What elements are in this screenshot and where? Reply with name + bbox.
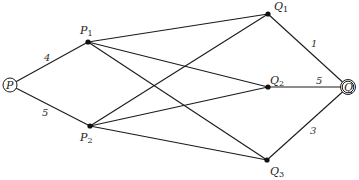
node-p2-dot-icon bbox=[87, 123, 92, 128]
edge-p-p1 bbox=[10, 42, 88, 85]
node-p1-label: P1 bbox=[79, 24, 93, 38]
edge-weight-label: 1 bbox=[311, 38, 317, 49]
edge-q3-q bbox=[267, 87, 348, 160]
edge-p2-q2 bbox=[90, 87, 268, 126]
network-diagram: 45153 PP1P2Q1Q2Q3Q bbox=[0, 0, 359, 180]
edge-weight-label: 4 bbox=[43, 52, 50, 63]
node-q1-label: Q1 bbox=[274, 0, 288, 14]
node-p-label: P bbox=[5, 79, 14, 92]
node-labels-layer: PP1P2Q1Q2Q3Q bbox=[5, 0, 353, 179]
node-q3-dot-icon bbox=[264, 157, 269, 162]
node-q2-label: Q2 bbox=[270, 74, 284, 88]
edge-weight-label: 3 bbox=[310, 125, 316, 136]
edge-p-p2 bbox=[10, 85, 90, 126]
edge-p2-q1 bbox=[90, 14, 268, 126]
edge-p1-q2 bbox=[88, 42, 268, 87]
edges-layer bbox=[10, 14, 348, 160]
node-p1-dot-icon bbox=[85, 39, 90, 44]
edge-weight-label: 5 bbox=[316, 75, 322, 86]
node-q3-label: Q3 bbox=[270, 165, 284, 179]
edge-weight-label: 5 bbox=[42, 107, 48, 118]
node-q1-dot-icon bbox=[265, 11, 270, 16]
edge-q1-q bbox=[268, 14, 348, 87]
edge-p1-q1 bbox=[88, 14, 268, 42]
node-q-label: Q bbox=[344, 81, 353, 94]
node-p2-label: P2 bbox=[79, 131, 93, 145]
